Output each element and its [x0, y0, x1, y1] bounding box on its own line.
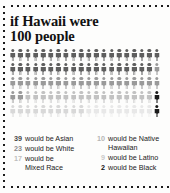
- person-icon-head: [19, 91, 22, 94]
- person-icon-head: [102, 91, 105, 94]
- legend-item: 2would be Black: [91, 163, 169, 172]
- person-icon-body: [124, 109, 129, 117]
- person-icon-head: [125, 105, 128, 108]
- person-icon-body: [56, 109, 61, 117]
- person-icon: [9, 105, 17, 117]
- person-icon: [108, 49, 116, 61]
- person-icon-body: [154, 109, 159, 117]
- person-icon-head: [11, 91, 14, 94]
- person-icon-body: [56, 81, 61, 89]
- person-icon-body: [40, 81, 45, 89]
- person-icon-head: [57, 49, 60, 52]
- person-icon: [9, 91, 17, 103]
- person-icon-head: [64, 91, 67, 94]
- person-icon: [138, 105, 146, 117]
- person-icon-body: [139, 109, 144, 117]
- person-icon: [77, 105, 85, 117]
- person-icon-head: [110, 91, 113, 94]
- person-icon-head: [102, 77, 105, 80]
- person-icon: [39, 91, 47, 103]
- pictogram-grid: [9, 49, 165, 117]
- person-icon: [55, 91, 63, 103]
- person-icon-body: [109, 67, 114, 75]
- person-icon: [146, 105, 154, 117]
- person-icon-head: [79, 77, 82, 80]
- person-icon-head: [155, 63, 158, 66]
- person-icon: [146, 63, 154, 75]
- person-icon-head: [72, 91, 75, 94]
- person-icon-body: [56, 95, 61, 103]
- person-icon-head: [49, 91, 52, 94]
- person-icon-head: [41, 105, 44, 108]
- person-icon-head: [41, 49, 44, 52]
- person-icon: [123, 63, 131, 75]
- person-icon-head: [26, 77, 29, 80]
- person-icon: [123, 91, 131, 103]
- legend-item-label-continued: Mixed Race: [25, 163, 87, 172]
- person-icon-head: [140, 105, 143, 108]
- person-icon: [108, 105, 116, 117]
- person-icon-head: [64, 77, 67, 80]
- person-icon-head: [140, 49, 143, 52]
- person-icon: [93, 63, 101, 75]
- person-icon: [138, 77, 146, 89]
- person-icon-head: [102, 63, 105, 66]
- person-icon: [108, 91, 116, 103]
- person-icon-body: [124, 95, 129, 103]
- person-icon: [85, 91, 93, 103]
- person-icon: [24, 105, 32, 117]
- legend-item: 9would be Latino: [91, 153, 169, 162]
- person-icon: [100, 49, 108, 61]
- person-icon: [24, 63, 32, 75]
- person-icon-body: [33, 109, 38, 117]
- pictogram-row: [9, 63, 165, 75]
- person-icon-head: [72, 49, 75, 52]
- person-icon-body: [86, 81, 91, 89]
- page-title: if Hawaii were 100 people: [10, 14, 145, 43]
- person-icon: [153, 49, 161, 61]
- person-icon: [100, 77, 108, 89]
- person-icon-body: [63, 109, 68, 117]
- person-icon-head: [79, 63, 82, 66]
- person-icon-body: [94, 67, 99, 75]
- person-icon: [9, 77, 17, 89]
- person-icon-head: [26, 63, 29, 66]
- person-icon-head: [49, 63, 52, 66]
- person-icon: [131, 77, 139, 89]
- person-icon: [32, 63, 40, 75]
- person-icon: [115, 63, 123, 75]
- person-icon-head: [64, 49, 67, 52]
- person-icon: [153, 105, 161, 117]
- person-icon: [47, 91, 55, 103]
- legend-item-value: 17: [9, 154, 25, 163]
- dotted-border-top: [9, 4, 170, 8]
- person-icon-body: [116, 67, 121, 75]
- person-icon: [70, 77, 78, 89]
- person-icon: [9, 49, 17, 61]
- person-icon: [55, 63, 63, 75]
- person-icon-head: [11, 77, 14, 80]
- person-icon: [146, 49, 154, 61]
- person-icon-body: [101, 67, 106, 75]
- person-icon-body: [154, 81, 159, 89]
- person-icon: [39, 105, 47, 117]
- person-icon: [93, 91, 101, 103]
- person-icon-head: [87, 63, 90, 66]
- person-icon-body: [109, 81, 114, 89]
- person-icon: [17, 49, 25, 61]
- person-icon-head: [87, 49, 90, 52]
- person-icon-body: [154, 67, 159, 75]
- person-icon: [17, 91, 25, 103]
- person-icon-body: [139, 53, 144, 61]
- person-icon: [138, 49, 146, 61]
- person-icon: [24, 77, 32, 89]
- person-icon-body: [40, 67, 45, 75]
- person-icon: [146, 91, 154, 103]
- title-line-1: if Hawaii were: [10, 13, 99, 29]
- person-icon-head: [57, 63, 60, 66]
- person-icon: [32, 91, 40, 103]
- person-icon: [85, 49, 93, 61]
- person-icon-body: [154, 53, 159, 61]
- person-icon: [24, 49, 32, 61]
- person-icon-body: [33, 53, 38, 61]
